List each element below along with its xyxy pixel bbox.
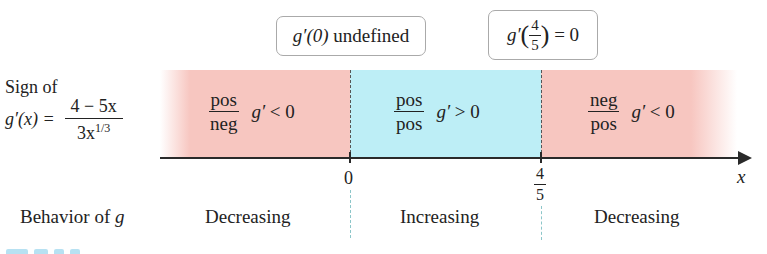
callout-g-prime-four-fifths-zero: g′ ( 4 5 ) = 0 — [488, 10, 598, 60]
sign-denominator: neg — [208, 112, 239, 133]
behavior-left: Decreasing — [205, 206, 290, 228]
derivative-lhs: g′(x) = — [5, 109, 55, 130]
sign-numerator: pos — [209, 90, 239, 112]
fraction-denominator: 5 — [534, 185, 546, 203]
divider-at-0 — [350, 70, 351, 158]
fraction-numerator: 4 — [529, 18, 541, 36]
clipped-figure-caption — [6, 247, 96, 254]
callout-fn: g′(0) — [293, 25, 329, 47]
derivative-formula: g′(x) = 4 − 5x 3x1/3 — [5, 97, 123, 142]
fraction-numerator: 4 — [534, 166, 546, 185]
behavior-of-g-label: Behavior of g — [20, 206, 124, 228]
callout-g-prime-0-undefined: g′(0) undefined — [276, 16, 426, 56]
callout-rhs: = 0 — [554, 24, 579, 46]
behavior-label-var: g — [115, 206, 125, 227]
sign-denominator: pos — [394, 112, 424, 133]
behavior-label-text: Behavior of — [20, 206, 110, 227]
sign-relation: < 0 — [270, 101, 295, 123]
sign-fraction: neg pos — [588, 90, 619, 133]
region-label-middle: pos pos g′ > 0 — [394, 90, 480, 133]
tick-four-fifths — [540, 152, 542, 163]
axis-arrowhead-icon — [738, 151, 752, 165]
behavior-right: Decreasing — [594, 206, 679, 228]
guide-line-at-0 — [350, 190, 351, 238]
region-label-left: pos neg g′ < 0 — [208, 90, 295, 133]
g-prime-symbol: g′ — [631, 101, 645, 123]
sign-denominator: pos — [589, 112, 619, 133]
right-paren: ) — [541, 22, 550, 48]
sign-numerator: pos — [394, 90, 424, 112]
derivative-numerator: 4 − 5x — [65, 97, 123, 119]
tick-0 — [349, 152, 351, 163]
axis-variable-label: x — [737, 166, 745, 188]
sign-fraction: pos pos — [394, 90, 424, 133]
guide-line-at-four-fifths — [541, 206, 542, 240]
sign-relation: < 0 — [650, 101, 675, 123]
callout-text: undefined — [333, 25, 409, 47]
callout-fn: g′ — [507, 24, 521, 46]
sign-fraction: pos neg — [208, 90, 239, 133]
derivative-fraction: 4 − 5x 3x1/3 — [65, 97, 123, 142]
sign-numerator: neg — [588, 90, 619, 112]
fraction-denominator: 5 — [529, 36, 541, 53]
g-prime-symbol: g′ — [436, 101, 450, 123]
left-paren: ( — [521, 22, 530, 48]
sign-of-label: Sign of — [5, 77, 58, 98]
g-prime-symbol: g′ — [251, 101, 265, 123]
four-fifths-fraction: 4 5 — [534, 166, 546, 203]
behavior-middle: Increasing — [400, 206, 479, 228]
number-line-axis — [160, 157, 743, 159]
sign-relation: > 0 — [455, 101, 480, 123]
derivative-denominator: 3x1/3 — [71, 119, 116, 142]
denominator-exponent: 1/3 — [95, 121, 110, 135]
tick-label-0: 0 — [344, 168, 353, 189]
fraction-four-fifths: 4 5 — [529, 18, 541, 53]
region-label-right: neg pos g′ < 0 — [588, 90, 675, 133]
tick-label-four-fifths: 4 5 — [534, 166, 546, 203]
divider-at-four-fifths — [541, 70, 542, 158]
denominator-base: 3x — [77, 123, 95, 143]
